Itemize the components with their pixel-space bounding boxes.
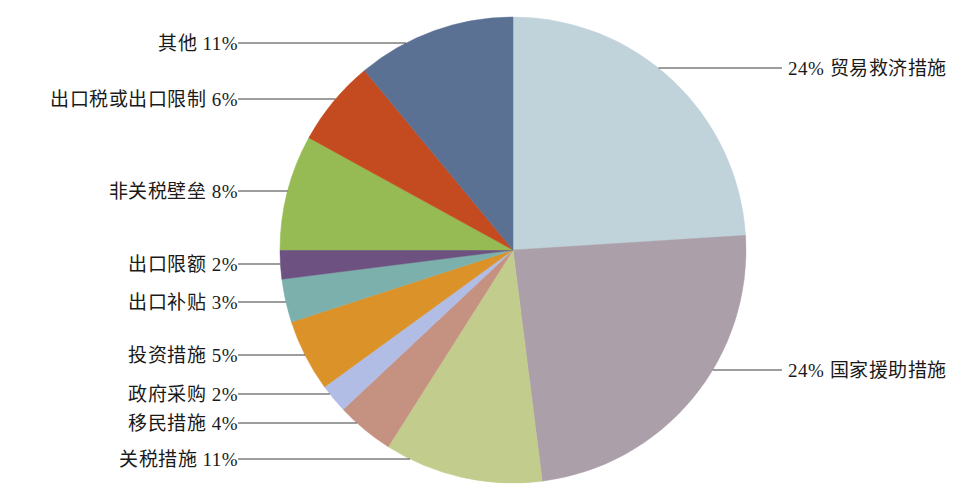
pie-chart-figure: 其他 11% 出口税或出口限制 6% 非关税壁垒 8% 出口限额 2% 出口补贴… <box>0 0 966 494</box>
callout-label-non-tariff-barrier: 非关税壁垒 8% <box>109 182 238 201</box>
callout-label-trade-remedy: 24% 贸易救济措施 <box>788 59 947 78</box>
callout-label-investment-measures: 投资措施 5% <box>128 346 238 365</box>
pie-slice-group <box>280 17 746 483</box>
callout-label-export-quota: 出口限额 2% <box>128 255 238 274</box>
callout-label-tariff-measures: 关税措施 11% <box>119 450 238 469</box>
callout-label-export-subsidy: 出口补贴 3% <box>128 293 238 312</box>
callout-label-other: 其他 11% <box>158 34 238 53</box>
callout-label-government-procurement: 政府采购 2% <box>128 385 238 404</box>
callout-label-export-tax-restriction: 出口税或出口限制 6% <box>50 90 238 109</box>
callout-label-migration-measures: 移民措施 4% <box>128 414 238 433</box>
pie-slice <box>513 17 746 250</box>
pie-slice <box>513 235 746 481</box>
callout-label-state-aid: 24% 国家援助措施 <box>788 361 947 380</box>
